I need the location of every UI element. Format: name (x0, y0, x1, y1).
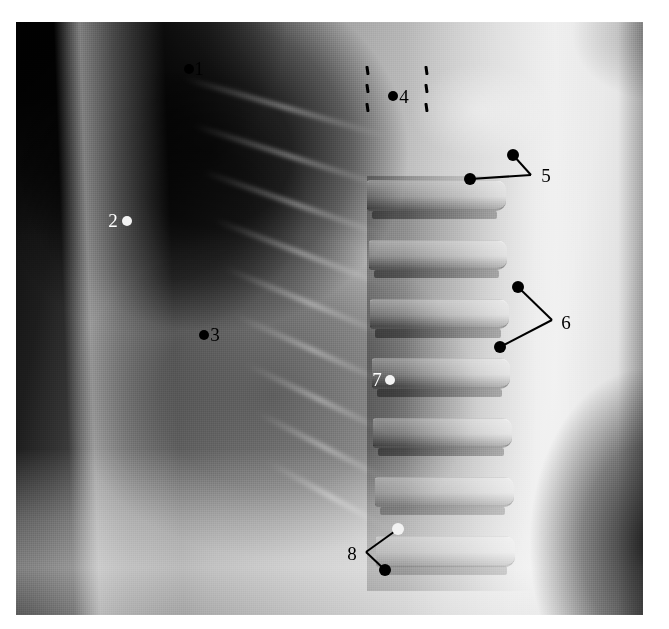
marker-dot-2 (122, 216, 132, 226)
marker-dot-4 (388, 91, 398, 101)
marker-label-6: 6 (561, 313, 571, 332)
marker-dot-6-1 (512, 281, 524, 293)
dashed-line-segment-4-1 (424, 66, 428, 76)
marker-label-7: 7 (372, 370, 382, 389)
marker-label-8: 8 (347, 544, 357, 563)
screenshot-root: 12345678 (0, 0, 669, 629)
marker-label-1: 1 (194, 59, 204, 78)
marker-label-4: 4 (399, 87, 409, 106)
annotation-overlay: 12345678 (0, 0, 669, 629)
dashed-line-segment-4-0 (365, 66, 369, 76)
dashed-line-segment-4-0 (365, 103, 369, 113)
dashed-line-segment-4-1 (424, 103, 428, 113)
marker-label-3: 3 (210, 325, 220, 344)
marker-label-2: 2 (108, 211, 118, 230)
dashed-line-segment-4-1 (424, 84, 428, 94)
dashed-line-segment-4-0 (365, 84, 369, 94)
marker-dot-5-1 (507, 149, 519, 161)
marker-label-5: 5 (541, 166, 551, 185)
marker-dot-5-2 (464, 173, 476, 185)
marker-dot-8-2 (379, 564, 391, 576)
marker-dot-6-2 (494, 341, 506, 353)
marker-dot-1 (184, 64, 194, 74)
marker-dot-7 (385, 375, 395, 385)
marker-dot-8-1 (392, 523, 404, 535)
marker-dot-3 (199, 330, 209, 340)
